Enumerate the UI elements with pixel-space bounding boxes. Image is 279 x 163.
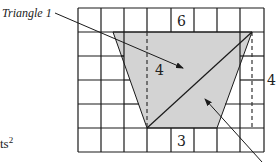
triangle1-label: Triangle 1 (2, 6, 52, 20)
right-height-label: 4 (267, 72, 276, 88)
bottom-base-label: 3 (177, 133, 186, 149)
units-exponent: 2 (9, 135, 14, 145)
units-text: ts (0, 136, 9, 151)
trapezoid-diagram: 6 3 4 4 Triangle 1 ts2 (0, 0, 279, 163)
inner-height-label: 4 (155, 62, 164, 78)
top-base-label: 6 (177, 13, 186, 29)
units-label: ts2 (0, 135, 13, 151)
